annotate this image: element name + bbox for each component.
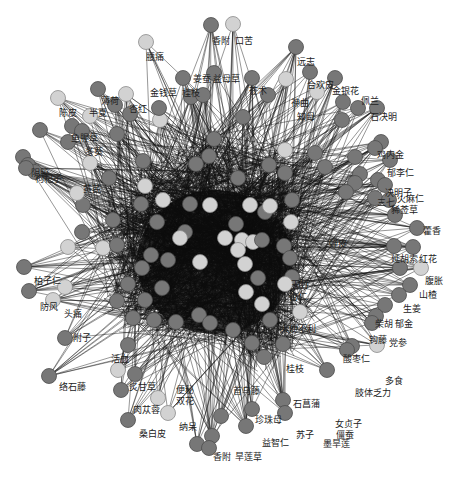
graph-node-dark[interactable]	[202, 149, 217, 164]
graph-node-light[interactable]	[243, 198, 258, 213]
graph-node-dark[interactable]	[135, 261, 150, 276]
node-label-shanzha: 山楂	[419, 289, 437, 300]
graph-node-dark[interactable]	[75, 225, 90, 240]
graph-node-dark[interactable]	[17, 260, 32, 275]
graph-node-light[interactable]	[263, 199, 278, 214]
graph-node-dark[interactable]	[58, 331, 73, 346]
graph-node-light[interactable]	[238, 257, 253, 272]
graph-node-light[interactable]	[96, 241, 111, 256]
graph-node-light[interactable]	[51, 91, 66, 106]
graph-node-dark[interactable]	[262, 158, 277, 173]
graph-node-light[interactable]	[239, 285, 254, 300]
node-label-shijueming: 石决明	[370, 111, 397, 122]
graph-node-dark[interactable]	[110, 294, 125, 309]
graph-node-light[interactable]	[278, 143, 293, 158]
graph-node-dark[interactable]	[236, 110, 251, 125]
graph-node-dark[interactable]	[136, 154, 151, 169]
graph-node-dark[interactable]	[176, 71, 191, 86]
graph-node-dark[interactable]	[335, 113, 350, 128]
node-label-zhitifali: 肢体乏力	[355, 387, 391, 398]
graph-node-dark[interactable]	[106, 213, 121, 228]
graph-node-dark[interactable]	[33, 123, 48, 138]
graph-node-light[interactable]	[193, 255, 208, 270]
graph-node-dark[interactable]	[283, 251, 298, 266]
graph-node-dark[interactable]	[276, 393, 291, 408]
graph-node-dark[interactable]	[155, 281, 170, 296]
node-label-daibugongli: 大便不利	[280, 323, 316, 334]
graph-node-dark[interactable]	[276, 337, 291, 352]
graph-node-dark[interactable]	[278, 166, 293, 181]
graph-node-dark[interactable]	[169, 315, 184, 330]
graph-node-light[interactable]	[226, 17, 241, 32]
graph-node-dark[interactable]	[285, 193, 300, 208]
graph-node-dark[interactable]	[91, 82, 106, 97]
node-label-hehuanpi: 合欢皮	[307, 79, 334, 90]
graph-node-dark[interactable]	[204, 18, 219, 33]
graph-node-light[interactable]	[203, 198, 218, 213]
graph-node-light[interactable]	[111, 363, 126, 378]
graph-node-dark[interactable]	[339, 185, 354, 200]
node-label-huoluo: 活血	[111, 353, 129, 364]
graph-node-dark[interactable]	[42, 369, 57, 384]
graph-node-light[interactable]	[61, 240, 76, 255]
graph-node-light[interactable]	[173, 231, 188, 246]
graph-node-dark[interactable]	[251, 271, 266, 286]
graph-node-dark[interactable]	[138, 293, 153, 308]
graph-node-light[interactable]	[83, 156, 98, 171]
graph-node-dark[interactable]	[203, 316, 218, 331]
graph-node-dark[interactable]	[134, 197, 149, 212]
graph-node-dark[interactable]	[147, 313, 162, 328]
graph-node-dark[interactable]	[126, 311, 141, 326]
graph-node-dark[interactable]	[257, 350, 272, 365]
graph-node-light[interactable]	[255, 297, 270, 312]
graph-node-light[interactable]	[119, 87, 134, 102]
node-label-yaotong: 腰痛	[146, 51, 164, 62]
graph-node-dark[interactable]	[121, 277, 136, 292]
graph-node-dark[interactable]	[406, 240, 421, 255]
graph-node-dark[interactable]	[231, 171, 246, 186]
node-label-guizhi_top: 桂枝	[182, 87, 200, 98]
graph-node-dark[interactable]	[245, 71, 260, 86]
graph-node-dark[interactable]	[128, 367, 143, 382]
graph-node-dark[interactable]	[161, 253, 176, 268]
graph-node-dark[interactable]	[114, 383, 129, 398]
graph-node-dark[interactable]	[392, 288, 407, 303]
graph-node-light[interactable]	[293, 305, 308, 320]
node-label-huangqi: 黄芪	[83, 183, 101, 194]
graph-node-light[interactable]	[156, 193, 171, 208]
node-label-nvzhenzi: 女贞子	[335, 418, 362, 429]
graph-node-dark[interactable]	[226, 323, 241, 338]
graph-node-light[interactable]	[218, 231, 233, 246]
graph-node-dark[interactable]	[320, 363, 335, 378]
graph-node-dark[interactable]	[245, 336, 260, 351]
graph-node-light[interactable]	[161, 406, 176, 421]
graph-node-dark[interactable]	[348, 150, 363, 165]
graph-node-dark[interactable]	[152, 101, 167, 116]
graph-node-dark[interactable]	[336, 95, 351, 110]
graph-node-dark[interactable]	[110, 127, 125, 142]
graph-node-dark[interactable]	[229, 217, 244, 232]
graph-node-dark[interactable]	[239, 419, 254, 434]
graph-node-light[interactable]	[139, 35, 154, 50]
graph-node-dark[interactable]	[110, 238, 125, 253]
node-label-chanpi: 蝉皮	[329, 238, 347, 249]
graph-node-dark[interactable]	[121, 338, 136, 353]
graph-node-light[interactable]	[284, 215, 299, 230]
graph-node-dark[interactable]	[308, 146, 323, 161]
graph-node-dark[interactable]	[214, 409, 229, 424]
graph-node-light[interactable]	[151, 391, 166, 406]
graph-node-dark[interactable]	[189, 157, 204, 172]
graph-node-dark[interactable]	[318, 160, 333, 175]
graph-node-dark[interactable]	[207, 132, 222, 147]
graph-node-light[interactable]	[138, 179, 153, 194]
graph-node-light[interactable]	[279, 72, 294, 87]
graph-node-dark[interactable]	[144, 248, 159, 263]
graph-node-dark[interactable]	[183, 197, 198, 212]
graph-node-dark[interactable]	[102, 171, 117, 186]
graph-node-dark[interactable]	[289, 40, 304, 55]
graph-node-dark[interactable]	[263, 313, 278, 328]
graph-node-dark[interactable]	[255, 233, 270, 248]
graph-node-dark[interactable]	[387, 239, 402, 254]
graph-node-light[interactable]	[231, 243, 246, 258]
graph-node-dark[interactable]	[150, 215, 165, 230]
